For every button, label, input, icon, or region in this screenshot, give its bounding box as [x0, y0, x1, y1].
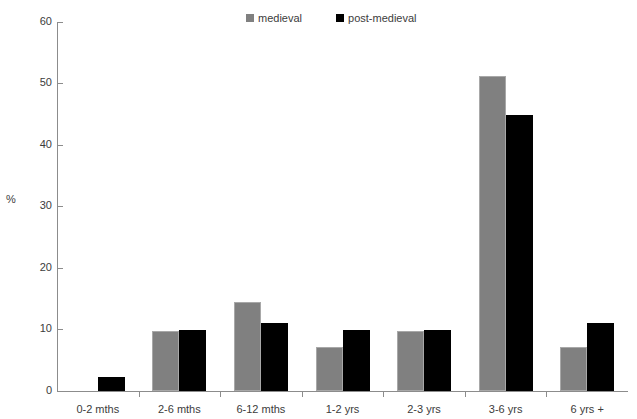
- plot-area: [57, 22, 628, 391]
- bar-chart: medieval post-medieval % 0102030405060 0…: [0, 0, 637, 419]
- y-tick-label: 60: [20, 16, 52, 27]
- x-tick-mark: [546, 392, 547, 397]
- bar-post-medieval-2-6-mths: [179, 330, 206, 392]
- y-tick-group: 30: [0, 206, 52, 207]
- x-category-label: 6 yrs +: [527, 403, 637, 415]
- y-tick-label: 20: [20, 262, 52, 273]
- bar-post-medieval-3-6-yrs: [506, 115, 533, 391]
- y-tick-group: 0: [0, 391, 52, 392]
- y-tick-label: 50: [20, 77, 52, 88]
- y-axis-label: %: [6, 194, 16, 205]
- x-axis-line: [57, 391, 628, 392]
- bar-medieval-6-12-mths: [234, 302, 261, 391]
- y-tick-group: 10: [0, 329, 52, 330]
- bar-medieval-3-6-yrs: [479, 76, 506, 391]
- y-tick-label: 40: [20, 139, 52, 150]
- x-tick-mark: [139, 392, 140, 397]
- y-tick-label: 0: [20, 385, 52, 396]
- y-tick-label: 30: [20, 200, 52, 211]
- x-tick-mark: [383, 392, 384, 397]
- post-medieval-swatch-icon: [336, 14, 344, 22]
- bar-post-medieval-0-2-mths: [98, 377, 125, 391]
- bar-post-medieval-6-12-mths: [261, 323, 288, 391]
- x-tick-mark: [302, 392, 303, 397]
- y-tick-label: 10: [20, 323, 52, 334]
- bar-medieval-1-2-yrs: [316, 347, 343, 391]
- bar-medieval-2-3-yrs: [397, 331, 424, 391]
- y-tick-group: 50: [0, 83, 52, 84]
- bar-medieval-2-6-mths: [152, 331, 179, 391]
- x-tick-mark: [465, 392, 466, 397]
- x-tick-mark: [220, 392, 221, 397]
- y-tick-group: 60: [0, 22, 52, 23]
- y-tick-group: 40: [0, 145, 52, 146]
- bar-post-medieval-1-2-yrs: [343, 330, 370, 392]
- bar-post-medieval-6-yrs-+: [587, 323, 614, 391]
- bar-medieval-6-yrs-+: [560, 347, 587, 391]
- y-tick-group: 20: [0, 268, 52, 269]
- medieval-swatch-icon: [246, 14, 254, 22]
- bar-post-medieval-2-3-yrs: [424, 330, 451, 392]
